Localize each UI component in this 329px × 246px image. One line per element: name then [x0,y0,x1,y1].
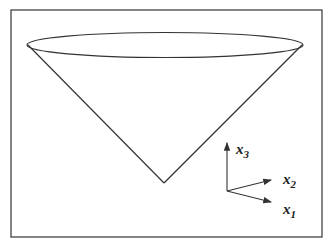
frame-border [11,10,322,237]
x1-label: x1 [282,201,296,220]
x2-axis-arrow [227,180,271,191]
cone-diagram: x3 x2 x1 [0,0,329,246]
cone-rim-ellipse [27,33,303,58]
x3-label: x3 [235,141,250,160]
x1-axis-arrow [227,191,271,202]
cone-right-edge [164,45,302,183]
axis-triad: x3 x2 x1 [227,141,297,220]
x2-label: x2 [282,171,297,190]
cone-left-edge [28,45,164,183]
